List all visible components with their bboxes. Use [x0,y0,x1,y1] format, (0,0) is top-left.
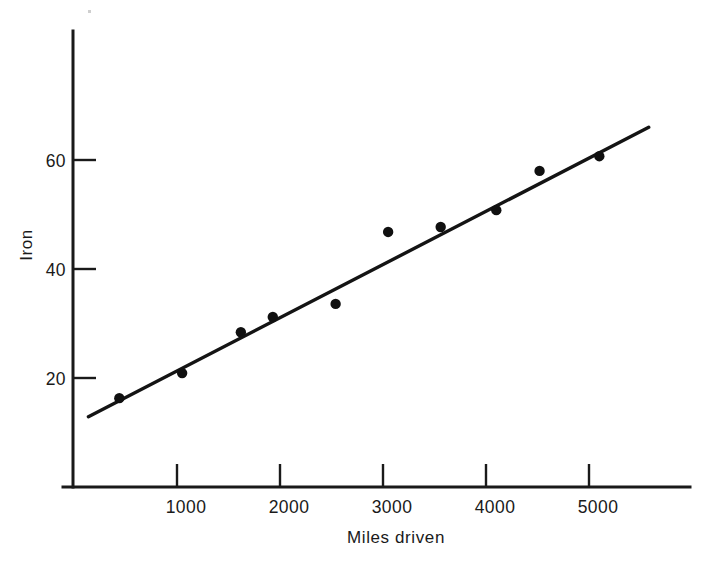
y-axis-title: Iron [17,229,36,261]
data-point [491,205,501,215]
data-point [534,166,544,176]
x-tick-label-5000: 5000 [578,497,619,517]
y-tick-label-20: 20 [46,369,66,389]
data-point [177,368,187,378]
y-tick-labels: 60 40 20 [46,151,66,389]
x-tick-labels: 1000 2000 3000 4000 5000 [166,497,619,517]
y-tick-label-40: 40 [46,260,66,280]
data-point [435,222,445,232]
x-tick-label-1000: 1000 [166,497,207,517]
x-axis-title: Miles driven [347,528,445,547]
scatter-plot-figure: 60 40 20 1000 2000 3000 4000 5000 Miles … [0,0,706,561]
y-tick-marks [73,160,96,378]
data-point [114,393,124,403]
data-point [383,227,393,237]
regression-fit-line [88,127,648,416]
x-tick-marks [177,464,589,487]
plot-canvas: 60 40 20 1000 2000 3000 4000 5000 Miles … [0,0,706,561]
x-tick-label-4000: 4000 [475,497,516,517]
data-point [268,312,278,322]
x-tick-label-3000: 3000 [372,497,413,517]
y-tick-label-60: 60 [46,151,66,171]
data-point [236,327,246,337]
data-point [594,151,604,161]
paper-speck [88,10,91,13]
x-tick-label-2000: 2000 [269,497,310,517]
data-point [330,299,340,309]
